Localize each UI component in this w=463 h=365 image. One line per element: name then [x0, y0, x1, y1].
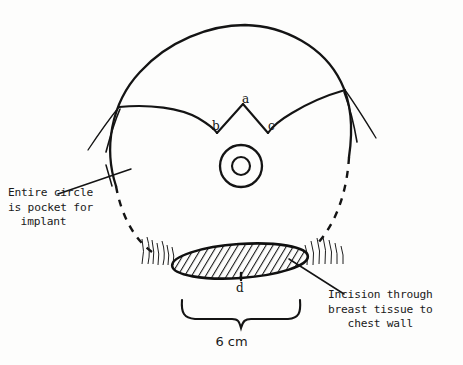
tissue-fringe-right: [305, 237, 343, 265]
nipple-circle: [232, 157, 250, 175]
pocket-annotation-line-1: Entire circle: [8, 186, 93, 201]
point-label-c: c: [268, 119, 275, 133]
pocket-annotation-label: Entire circle is pocket for implant: [8, 186, 93, 230]
incision-annotation-line-3: chest wall: [328, 317, 433, 332]
pocket-annotation-line-2: is pocket for: [8, 201, 93, 216]
measurement-value: 6 cm: [0, 334, 463, 349]
tissue-fringe-left: [142, 237, 174, 265]
areola-nipple-group: [220, 145, 262, 187]
figure-caption: [0, 356, 463, 365]
pocket-annotation-line-3: implant: [8, 215, 93, 230]
incision-annotation-label: Incision through breast tissue to chest …: [328, 288, 433, 332]
areola-circle: [220, 145, 262, 187]
figure-page: a b c d Entire circle is pocket for impl…: [0, 0, 463, 365]
incision-annotation-line-1: Incision through: [328, 288, 433, 303]
point-label-d: d: [236, 281, 244, 295]
point-label-a: a: [242, 92, 249, 106]
incision-annotation-line-2: breast tissue to: [328, 303, 433, 318]
breast-mound-arc: [119, 90, 345, 133]
point-label-b: b: [212, 119, 220, 133]
right-whisker-lines: [344, 90, 376, 142]
measurement-brace: [182, 300, 300, 328]
